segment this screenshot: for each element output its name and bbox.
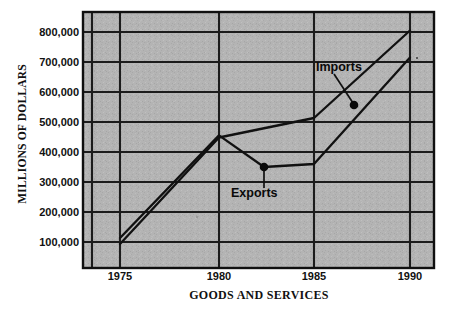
y-tick-label: 200,000 bbox=[5, 206, 79, 218]
y-tick-label: 400,000 bbox=[5, 146, 79, 158]
x-tick-label: 1975 bbox=[90, 270, 150, 282]
x-tick-label: 1980 bbox=[189, 270, 249, 282]
series-label-exports: Exports bbox=[231, 186, 278, 200]
y-tick-label: 800,000 bbox=[5, 26, 79, 38]
line-chart-figure: MILLIONS OF DOLLARS 800,000 700,000 600,… bbox=[0, 0, 459, 315]
y-tick-label: 500,000 bbox=[5, 116, 79, 128]
series-label-imports: Imports bbox=[316, 60, 362, 74]
imports-marker-dot bbox=[350, 101, 359, 110]
exports-marker-dot bbox=[260, 163, 269, 172]
x-axis-title: GOODS AND SERVICES bbox=[83, 288, 435, 303]
x-tick-label: 1985 bbox=[284, 270, 344, 282]
y-tick-label: 600,000 bbox=[5, 86, 79, 98]
scan-speck bbox=[196, 216, 198, 218]
y-tick-label: 100,000 bbox=[5, 236, 79, 248]
y-axis-tick-labels: 800,000 700,000 600,000 500,000 400,000 … bbox=[0, 0, 79, 315]
y-tick-label: 300,000 bbox=[5, 176, 79, 188]
y-tick-label: 700,000 bbox=[5, 56, 79, 68]
x-tick-label: 1990 bbox=[380, 270, 440, 282]
scan-speck bbox=[416, 57, 418, 59]
